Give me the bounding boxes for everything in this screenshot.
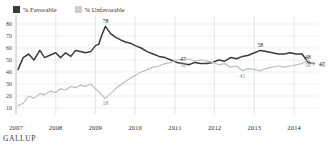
legend-label-favorable: % Favorable [23, 6, 57, 13]
data-label: 78 [98, 18, 112, 24]
x-tick-label: 2011 [160, 124, 190, 131]
x-tick-label: 2007 [1, 124, 31, 131]
data-label: 41 [236, 73, 250, 79]
data-label: 48 [301, 54, 315, 60]
legend-item-favorable: % Favorable [13, 6, 57, 13]
x-tick-label: 2008 [41, 124, 71, 131]
legend-label-unfavorable: % Unfavorable [85, 6, 125, 13]
plot-area: 1020304050607080 78475848471850415046 [0, 14, 321, 122]
y-tick-label: 60 [0, 45, 12, 51]
y-tick-label: 20 [0, 93, 12, 99]
series-line-unfavorable [18, 59, 314, 106]
gallup-brand-label: GALLUP [3, 134, 36, 143]
y-tick-label: 30 [0, 81, 12, 87]
x-tick-label: 2014 [279, 124, 309, 131]
y-tick-label: 40 [0, 69, 12, 75]
series-lines [18, 26, 314, 105]
x-tick-label: 2009 [80, 124, 110, 131]
axis-ticks [16, 15, 294, 114]
x-tick-label: 2010 [120, 124, 150, 131]
data-label: 47 [176, 56, 190, 62]
x-axis-labels: 20072008200920102011201220132014 [0, 124, 321, 134]
y-tick-label: 70 [0, 33, 12, 39]
chart-svg [0, 14, 321, 122]
data-label: 50 [176, 62, 190, 68]
x-tick-label: 2012 [200, 124, 230, 131]
y-tick-label: 80 [0, 21, 12, 27]
data-label: 18 [98, 100, 112, 106]
x-tick-label: 2013 [239, 124, 269, 131]
data-label: 46 [315, 62, 329, 68]
y-tick-label: 50 [0, 57, 12, 63]
legend-swatch-favorable [13, 6, 20, 13]
data-label: 50 [301, 62, 315, 68]
legend-swatch-unfavorable [75, 6, 82, 13]
legend-item-unfavorable: % Unfavorable [75, 6, 125, 13]
y-tick-label: 10 [0, 105, 12, 111]
grid-lines [16, 24, 318, 108]
data-label: 58 [253, 42, 267, 48]
